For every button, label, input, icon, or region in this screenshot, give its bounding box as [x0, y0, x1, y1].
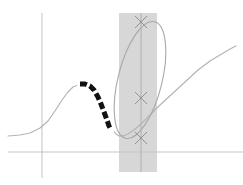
figure-canvas — [0, 0, 243, 185]
highlight-band — [119, 13, 157, 172]
plot-area — [0, 0, 243, 185]
